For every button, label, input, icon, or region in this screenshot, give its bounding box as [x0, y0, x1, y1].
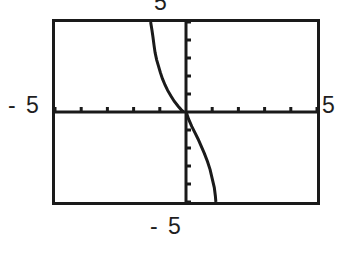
y-min-label: - 5	[150, 215, 183, 238]
x-max-label: 5	[322, 94, 337, 117]
calculator-screen: 5 - 5 5 - 5	[0, 0, 344, 256]
y-max-label: 5	[154, 0, 169, 14]
plot-area	[52, 19, 320, 205]
plot-canvas	[52, 19, 320, 205]
x-min-label: - 5	[8, 94, 41, 117]
